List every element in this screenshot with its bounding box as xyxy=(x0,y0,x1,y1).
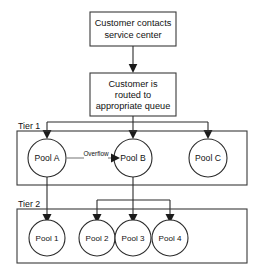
pool-4-label: Pool 4 xyxy=(159,234,182,243)
routing-flowchart: Customer contacts service center Custome… xyxy=(0,0,260,277)
pool-4-node[interactable]: Pool 4 xyxy=(152,220,188,256)
process-box-routed-line-1: Customer is xyxy=(108,79,157,89)
tier-2-label: Tier 2 xyxy=(18,199,40,209)
pool-c-label: Pool C xyxy=(195,153,221,163)
diagram-canvas: Customer contacts service center Custome… xyxy=(0,0,260,277)
pool-1-label: Pool 1 xyxy=(36,234,59,243)
pool-c-node[interactable]: Pool C xyxy=(189,139,227,177)
connector-routed-to-tier1-bus xyxy=(43,116,213,139)
pool-a-label: Pool A xyxy=(35,153,60,163)
pool-a-node[interactable]: Pool A xyxy=(28,139,66,177)
process-box-routed: Customer is routed to appropriate queue xyxy=(90,73,176,116)
connector-contact-to-routed xyxy=(129,46,138,73)
process-box-contact-line-2: service center xyxy=(104,30,161,40)
connector-pool-a-to-pool-1 xyxy=(43,177,52,223)
pool-1-node[interactable]: Pool 1 xyxy=(29,220,65,256)
pool-3-node[interactable]: Pool 3 xyxy=(115,220,151,256)
connector-pool-b-to-tier2-bus xyxy=(93,177,175,223)
overflow-edge-label: Overflow xyxy=(83,150,109,157)
tier-1-label: Tier 1 xyxy=(18,121,40,131)
process-box-contact: Customer contacts service center xyxy=(90,12,176,46)
process-box-routed-line-3: appropriate queue xyxy=(96,101,171,111)
pool-2-label: Pool 2 xyxy=(86,234,109,243)
connector-overflow: Overflow xyxy=(66,150,120,162)
pool-b-label: Pool B xyxy=(120,153,146,163)
pool-2-node[interactable]: Pool 2 xyxy=(79,220,115,256)
process-box-routed-line-2: routed to xyxy=(115,90,151,100)
pool-3-label: Pool 3 xyxy=(122,234,145,243)
process-box-contact-line-1: Customer contacts xyxy=(95,18,172,28)
